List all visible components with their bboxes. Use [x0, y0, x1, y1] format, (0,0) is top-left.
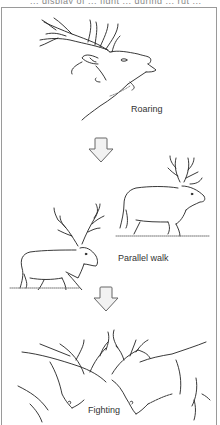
down-arrow-icon [92, 285, 120, 313]
roaring-stag-illustration [0, 0, 220, 130]
parallel-walk-stags-illustration [0, 150, 220, 290]
stage-label-roaring: Roaring [131, 104, 163, 114]
stage-label-fighting: Fighting [88, 405, 120, 415]
stage-label-parallel-walk: Parallel walk [118, 253, 169, 263]
